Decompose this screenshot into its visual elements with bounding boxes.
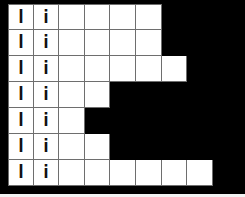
grid-cell[interactable] (59, 82, 85, 108)
bottom-edge (0, 194, 245, 197)
grid-cell[interactable]: l (8, 4, 34, 30)
grid-cell[interactable] (85, 56, 111, 82)
grid-cell[interactable]: i (34, 56, 60, 82)
grid-row: li (8, 108, 85, 134)
grid-cell[interactable] (85, 134, 111, 160)
grid-cell[interactable]: l (8, 160, 34, 186)
grid-cell[interactable] (59, 30, 85, 56)
cell-letter: l (18, 138, 23, 155)
grid-cell[interactable] (85, 4, 111, 30)
cell-letter: i (43, 60, 48, 77)
grid-cell[interactable]: i (34, 30, 60, 56)
grid-cell[interactable] (187, 160, 213, 186)
grid-cell[interactable] (110, 160, 136, 186)
grid-cell[interactable] (59, 134, 85, 160)
grid-cell[interactable]: l (8, 82, 34, 108)
grid-cell[interactable] (85, 160, 111, 186)
cell-letter: l (18, 112, 23, 129)
cell-letter: i (43, 9, 48, 26)
grid-row: li (8, 4, 162, 30)
cell-letter: l (18, 86, 23, 103)
cell-letter: i (43, 138, 48, 155)
grid-cell[interactable]: l (8, 56, 34, 82)
grid-cell[interactable]: i (34, 134, 60, 160)
cell-letter: l (18, 164, 23, 181)
grid-cell[interactable]: i (34, 160, 60, 186)
grid-row: li (8, 160, 213, 186)
grid-cell[interactable] (136, 160, 162, 186)
grid-cell[interactable] (59, 108, 85, 134)
grid-cell[interactable] (136, 56, 162, 82)
cell-letter: l (18, 9, 23, 26)
grid-cell[interactable] (59, 160, 85, 186)
grid-cell[interactable] (85, 30, 111, 56)
cell-letter: l (18, 34, 23, 51)
cell-letter: l (18, 60, 23, 77)
cell-letter: i (43, 112, 48, 129)
grid-cell[interactable] (85, 82, 111, 108)
grid-cell[interactable] (136, 30, 162, 56)
grid-cell[interactable]: l (8, 108, 34, 134)
grid-cell[interactable] (59, 56, 85, 82)
cell-letter: i (43, 34, 48, 51)
cell-letter: i (43, 86, 48, 103)
grid-row: li (8, 30, 162, 56)
grid-cell[interactable]: i (34, 82, 60, 108)
grid-cell[interactable] (110, 30, 136, 56)
grid-cell[interactable]: l (8, 30, 34, 56)
grid-cell[interactable] (162, 160, 188, 186)
grid-cell[interactable]: i (34, 4, 60, 30)
grid-row: li (8, 56, 187, 82)
grid-cell[interactable] (110, 4, 136, 30)
grid-cell[interactable] (162, 56, 188, 82)
grid-cell[interactable] (59, 4, 85, 30)
grid-cell[interactable] (136, 4, 162, 30)
grid-row: li (8, 82, 110, 108)
cell-letter: i (43, 164, 48, 181)
grid-cell[interactable] (110, 56, 136, 82)
grid-cell[interactable]: i (34, 108, 60, 134)
grid-row: li (8, 134, 110, 160)
grid-cell[interactable]: l (8, 134, 34, 160)
